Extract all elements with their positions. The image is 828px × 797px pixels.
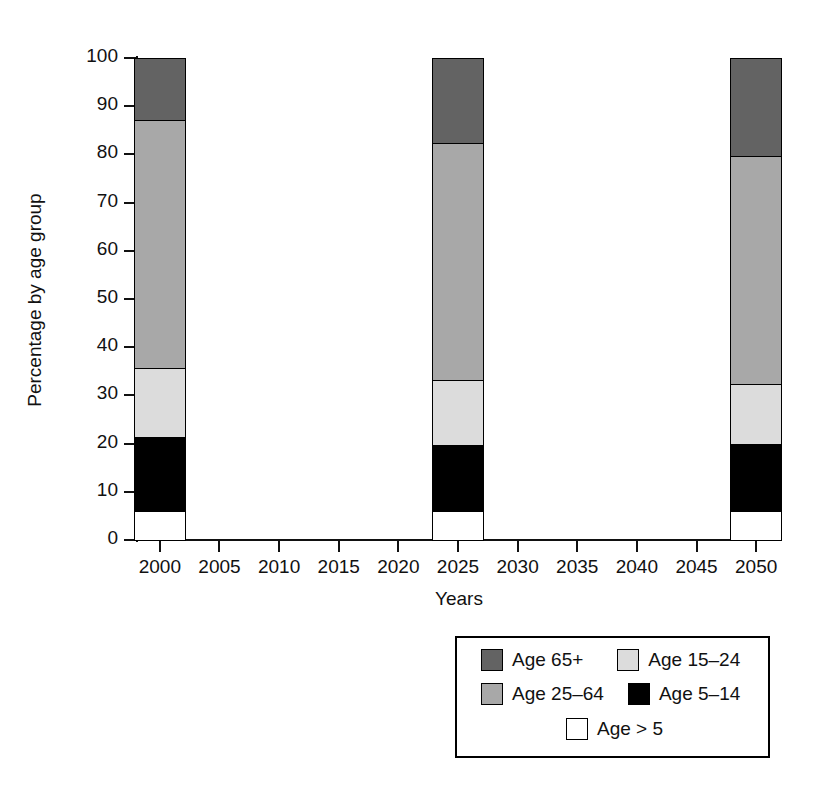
legend-label-age-gt-5: Age > 5 [597, 718, 663, 740]
legend-label-age-15-24: Age 15–24 [648, 649, 740, 671]
x-axis-tick-label: 2045 [667, 556, 727, 578]
y-axis-tick-label: 30 [60, 382, 118, 404]
legend-item-age-5-14: Age 5–14 [628, 683, 740, 705]
y-axis-tick-label: 40 [60, 334, 118, 356]
legend-item-age-gt-5: Age > 5 [566, 718, 663, 740]
chart-figure: 0102030405060708090100 20002005201020152… [0, 0, 828, 797]
x-axis-tick-label: 2020 [368, 556, 428, 578]
x-axis-tick [755, 541, 757, 552]
legend-swatch-age-65-plus [481, 649, 503, 671]
bar-segment [730, 384, 782, 445]
y-axis-tick-label: 60 [60, 238, 118, 260]
x-axis-tick [636, 541, 638, 552]
x-axis-title: Years [136, 588, 782, 610]
bar-segment [134, 437, 186, 512]
bar-segment [432, 379, 484, 446]
x-axis-tick-label: 2050 [726, 556, 786, 578]
x-axis-tick-label: 2040 [607, 556, 667, 578]
legend-item-age-15-24: Age 15–24 [617, 649, 740, 671]
x-axis-tick-label: 2030 [488, 556, 548, 578]
x-axis-tick [338, 541, 340, 552]
y-axis-tick-label: 80 [60, 141, 118, 163]
y-axis-tick-label: 10 [60, 479, 118, 501]
bar-segment [730, 443, 782, 511]
y-axis-title: Percentage by age group [24, 59, 50, 541]
bar-segment [134, 119, 186, 369]
bar-segment [134, 58, 186, 121]
legend-label-age-65-plus: Age 65+ [512, 649, 583, 671]
stacked-bar [730, 58, 782, 540]
legend-label-age-5-14: Age 5–14 [659, 683, 740, 705]
legend-item-age-65-plus: Age 65+ [481, 649, 583, 671]
x-axis-tick-label: 2025 [428, 556, 488, 578]
x-axis-tick [218, 541, 220, 552]
x-axis-tick [517, 541, 519, 552]
y-axis-tick-label: 50 [60, 286, 118, 308]
chart-legend: Age 65+ Age 15–24 Age 25–64 Age 5–14 Age… [455, 636, 770, 758]
bar-segment [134, 510, 186, 541]
legend-swatch-age-5-14 [628, 683, 650, 705]
bar-segment [432, 510, 484, 541]
stacked-bar [432, 58, 484, 540]
x-axis-tick-label: 2015 [309, 556, 369, 578]
stacked-bar [134, 58, 186, 540]
x-axis-tick-label: 2005 [189, 556, 249, 578]
bar-segment [432, 444, 484, 512]
bar-segment [730, 58, 782, 157]
bar-segment [432, 143, 484, 381]
x-axis-tick-label: 2035 [547, 556, 607, 578]
bar-segment [730, 510, 782, 541]
x-axis-tick-label: 2000 [130, 556, 190, 578]
y-axis-tick-label: 0 [60, 527, 118, 549]
x-axis-tick [696, 541, 698, 552]
legend-swatch-age-15-24 [617, 649, 639, 671]
x-axis-tick [397, 541, 399, 552]
y-axis-tick-label: 100 [60, 45, 118, 67]
x-axis-tick-label: 2010 [249, 556, 309, 578]
y-axis-tick-label: 70 [60, 190, 118, 212]
y-axis-tick-label: 90 [60, 93, 118, 115]
y-axis-tick-label: 20 [60, 431, 118, 453]
x-axis-tick [457, 541, 459, 552]
bar-segment [134, 368, 186, 438]
x-axis-tick [576, 541, 578, 552]
plot-area [136, 58, 780, 540]
bar-segment [432, 58, 484, 144]
legend-swatch-age-25-64 [481, 683, 503, 705]
x-axis-tick [278, 541, 280, 552]
x-axis-tick [159, 541, 161, 552]
legend-label-age-25-64: Age 25–64 [512, 683, 604, 705]
legend-swatch-age-gt-5 [566, 718, 588, 740]
bar-segment [730, 156, 782, 385]
legend-item-age-25-64: Age 25–64 [481, 683, 604, 705]
